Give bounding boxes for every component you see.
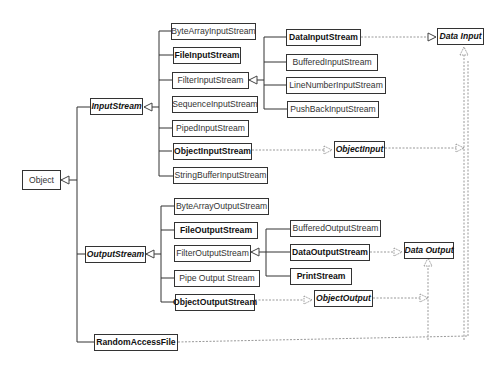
class-bytearrayinputstream[interactable]: ByteArrayInputStream bbox=[171, 23, 256, 40]
class-pipeoutputstream[interactable]: Pipe Output Stream bbox=[174, 270, 260, 287]
class-bufferedinputstream[interactable]: BufferedInputStream bbox=[286, 54, 378, 71]
class-outputstream[interactable]: OutputStream bbox=[85, 246, 146, 263]
class-pushbackinputstream[interactable]: PushBackInputStream bbox=[287, 101, 379, 118]
class-filterinputstream[interactable]: FilterInputStream bbox=[172, 72, 249, 89]
class-object[interactable]: Object bbox=[22, 170, 61, 190]
class-objectoutputstream[interactable]: ObjectOutputStream bbox=[175, 294, 255, 311]
interface-objectinput[interactable]: ObjectInput bbox=[334, 141, 385, 158]
class-fileinputstream[interactable]: FileInputStream bbox=[173, 47, 241, 64]
class-stringbufferinputstream[interactable]: StringBufferInputStream bbox=[173, 167, 268, 184]
class-sequenceinputstream[interactable]: SequenceInputStream bbox=[172, 96, 258, 113]
class-dataoutputstream[interactable]: DataOutputStream bbox=[290, 244, 370, 261]
class-bufferedoutputstream[interactable]: BufferedOutputStream bbox=[290, 220, 381, 237]
class-fileoutputstream[interactable]: FileOutputStream bbox=[174, 222, 258, 239]
class-filteroutputstream[interactable]: FilterOutputStream bbox=[174, 245, 251, 262]
class-linenumberinputstream[interactable]: LineNumberInputStream bbox=[286, 77, 386, 94]
interface-objectoutput[interactable]: ObjectOutput bbox=[314, 290, 373, 307]
interface-dataoutput[interactable]: Data Output bbox=[404, 242, 454, 259]
class-datainputstream[interactable]: DataInputStream bbox=[286, 29, 361, 46]
class-randomaccessfile[interactable]: RandomAccessFile bbox=[94, 334, 178, 351]
interface-datainput[interactable]: Data Input bbox=[437, 28, 484, 45]
class-printstream[interactable]: PrintStream bbox=[290, 268, 352, 285]
class-objectinputstream[interactable]: ObjectInputStream bbox=[173, 143, 252, 160]
connector-lines bbox=[0, 0, 504, 369]
class-bytearrayoutputstream[interactable]: ByteArrayOutputStream bbox=[174, 198, 269, 215]
class-pipedinputstream[interactable]: PipedInputStream bbox=[172, 120, 249, 137]
class-inputstream[interactable]: InputStream bbox=[90, 98, 143, 115]
